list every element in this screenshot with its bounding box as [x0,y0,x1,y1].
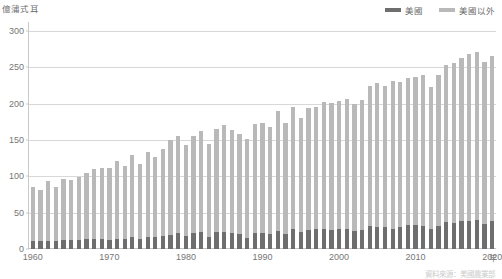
bar-segment-us [352,231,356,249]
bar-group[interactable] [123,166,127,249]
bar-segment-foreign [237,134,241,249]
bar-group[interactable] [54,187,58,249]
bar-segment-us [375,227,379,249]
bar-segment-foreign [31,187,35,249]
bar-group[interactable] [222,125,226,249]
bar-group[interactable] [314,107,318,249]
bar-segment-us [268,234,272,249]
bar-segment-us [398,227,402,249]
bar-group[interactable] [421,75,425,249]
bar-group[interactable] [214,129,218,249]
bar-segment-us [360,230,364,249]
bar-segment-foreign [84,173,88,249]
y-tick-label: 150 [9,135,24,145]
bar-group[interactable] [322,102,326,249]
bar-segment-us [100,239,104,249]
bar-group[interactable] [230,130,234,249]
bar-group[interactable] [176,136,180,249]
bar-group[interactable] [31,187,35,249]
bar-group[interactable] [260,123,264,249]
bar-group[interactable] [368,86,372,250]
bar-group[interactable] [329,103,333,249]
bar-group[interactable] [245,139,249,249]
bar-group[interactable] [199,131,203,249]
bar-group[interactable] [84,173,88,249]
bar-group[interactable] [352,104,356,249]
bar-segment-us [168,235,172,249]
bar-group[interactable] [69,180,73,249]
bar-group[interactable] [253,124,257,249]
bar-group[interactable] [291,107,295,249]
bar-group[interactable] [490,56,494,249]
bar-group[interactable] [375,83,379,249]
bar-group[interactable] [482,62,486,249]
bar-segment-foreign [191,136,195,249]
bar-segment-foreign [490,56,494,249]
bar-segment-foreign [337,101,341,249]
bar-segment-foreign [92,169,96,249]
bar-group[interactable] [391,81,395,249]
bar-segment-us [467,221,471,249]
bar-group[interactable] [61,179,65,249]
bar-group[interactable] [100,168,104,249]
bar-group[interactable] [184,145,188,249]
bar-group[interactable] [383,86,387,250]
bar-group[interactable] [130,155,134,249]
bar-group[interactable] [406,78,410,249]
bar-segment-us [413,225,417,249]
bar-segment-foreign [214,129,218,249]
bar-group[interactable] [107,168,111,249]
bar-group[interactable] [283,123,287,249]
bar-segment-foreign [391,81,395,249]
bar-segment-foreign [467,54,471,249]
x-tick-label: 2020 [482,252,502,262]
bar-group[interactable] [46,181,50,249]
bar-group[interactable] [138,164,142,249]
bar-group[interactable] [467,54,471,249]
bar-segment-us [245,238,249,249]
bar-segment-foreign [345,99,349,249]
bar-segment-foreign [329,103,333,249]
bar-segment-foreign [222,125,226,249]
bar-segment-us [199,232,203,249]
bar-group[interactable] [475,52,479,249]
bar-segment-us [391,229,395,249]
bar-group[interactable] [444,65,448,249]
bar-group[interactable] [153,157,157,249]
bar-group[interactable] [429,87,433,249]
bar-group[interactable] [413,77,417,249]
bar-group[interactable] [77,177,81,249]
bar-segment-us [184,236,188,249]
bar-segment-foreign [107,168,111,249]
bar-group[interactable] [268,127,272,249]
bar-group[interactable] [360,100,364,249]
bar-group[interactable] [237,134,241,249]
bar-group[interactable] [452,63,456,249]
bar-group[interactable] [337,101,341,249]
bar-group[interactable] [398,82,402,249]
bar-segment-foreign [153,157,157,249]
bar-group[interactable] [38,190,42,249]
bar-group[interactable] [276,111,280,249]
legend-item-1[interactable]: 美國以外 [439,4,495,16]
bar-segment-us [291,229,295,249]
bar-group[interactable] [345,99,349,249]
bar-group[interactable] [146,152,150,249]
bar-group[interactable] [306,108,310,249]
legend-item-0[interactable]: 美國 [385,4,423,16]
bar-group[interactable] [191,136,195,249]
bar-group[interactable] [168,140,172,249]
bar-segment-us [84,239,88,249]
bar-group[interactable] [207,144,211,249]
bar-group[interactable] [436,75,440,249]
x-tick-label: 2000 [329,252,349,262]
bar-group[interactable] [299,118,303,249]
bar-group[interactable] [115,161,119,249]
bar-group[interactable] [459,58,463,249]
bar-group[interactable] [92,169,96,249]
y-tick-label: 50 [14,208,24,218]
bar-group[interactable] [161,149,165,249]
bar-segment-us [115,239,119,249]
bar-segment-us [406,225,410,249]
bar-segment-foreign [100,168,104,249]
